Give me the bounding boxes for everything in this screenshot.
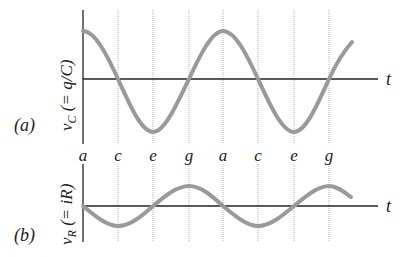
panel-b-ylabel: vR (= iR) (57, 183, 79, 245)
panel-b-axes (83, 164, 378, 242)
tick-label-a: a (79, 146, 88, 165)
panel-a-vc-curve (83, 31, 352, 132)
svg-text:vR (= iR): vR (= iR) (57, 183, 79, 245)
tick-label-g2: g (325, 146, 334, 165)
panel-a-axes (83, 10, 378, 144)
tick-label-e2: e (290, 146, 298, 165)
panel-a-t-label: t (386, 69, 392, 89)
panel-b-ylabel-rest: (= iR) (57, 183, 76, 230)
panel-b-t-label: t (386, 196, 392, 216)
tick-label-a2: a (219, 146, 228, 165)
tick-label-c: c (114, 146, 122, 165)
tick-label-g: g (185, 146, 194, 165)
tick-labels: a c e g a c e g (79, 146, 334, 165)
svg-text:vC (= q/C): vC (= q/C) (57, 59, 79, 131)
figure-canvas: a c e g a c e g t t (a) (b) vC (= q/C) v… (0, 0, 403, 257)
panel-a-tag: (a) (14, 115, 35, 136)
panel-a-ylabel: vC (= q/C) (57, 59, 79, 131)
panel-a-ylabel-rest: (= q/C) (57, 59, 76, 115)
tick-label-c2: c (254, 146, 262, 165)
tick-label-e: e (149, 146, 157, 165)
panel-b-tag: (b) (14, 225, 35, 246)
